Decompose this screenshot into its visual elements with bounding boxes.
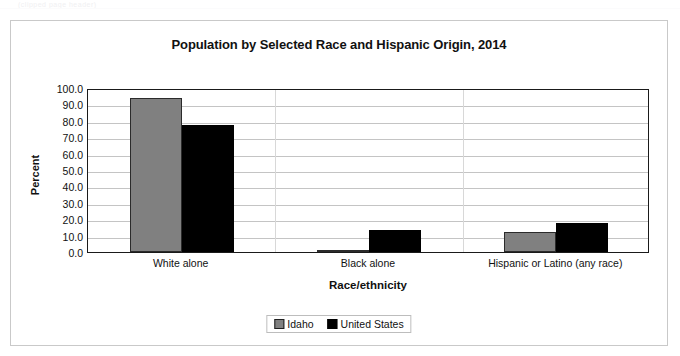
y-axis-tick-label: 100.0 bbox=[39, 83, 83, 95]
y-axis-tick-label: 70.0 bbox=[39, 132, 83, 144]
bar bbox=[182, 125, 234, 252]
chart-legend: IdahoUnited States bbox=[266, 315, 411, 333]
bars-layer bbox=[88, 90, 648, 252]
y-axis-tick-labels: 0.010.020.030.040.050.060.070.080.090.01… bbox=[39, 89, 83, 253]
legend-swatch-icon bbox=[274, 319, 284, 329]
clipped-header-text: (clipped page header) bbox=[18, 1, 97, 8]
y-axis-tick-label: 90.0 bbox=[39, 99, 83, 111]
legend-entry[interactable]: United States bbox=[328, 318, 404, 330]
y-axis-tick-label: 50.0 bbox=[39, 165, 83, 177]
y-axis-tick-label: 10.0 bbox=[39, 231, 83, 243]
y-axis-tick-label: 80.0 bbox=[39, 116, 83, 128]
x-axis-title: Race/ethnicity bbox=[87, 279, 649, 291]
y-axis-tick-label: 30.0 bbox=[39, 198, 83, 210]
bar bbox=[369, 230, 421, 252]
y-axis-tick-label: 60.0 bbox=[39, 149, 83, 161]
chart-title: Population by Selected Race and Hispanic… bbox=[11, 37, 667, 52]
legend-label: Idaho bbox=[287, 318, 313, 330]
chart-container: Population by Selected Race and Hispanic… bbox=[10, 20, 668, 346]
bar bbox=[504, 232, 556, 252]
bar-group bbox=[275, 90, 462, 252]
y-axis-tick-label: 0.0 bbox=[39, 247, 83, 259]
clipped-header-artifact: (clipped page header) bbox=[0, 0, 680, 12]
x-axis-tick-label: Black alone bbox=[274, 257, 461, 269]
legend-entry[interactable]: Idaho bbox=[274, 318, 313, 330]
bar bbox=[556, 223, 608, 252]
clipped-header-rule bbox=[0, 8, 680, 9]
plot-area bbox=[87, 89, 649, 253]
x-axis-tick-labels: White aloneBlack aloneHispanic or Latino… bbox=[87, 257, 649, 275]
bar-group bbox=[463, 90, 650, 252]
legend-swatch-icon bbox=[328, 319, 338, 329]
x-axis-tick-label: White alone bbox=[87, 257, 274, 269]
bar-group bbox=[88, 90, 275, 252]
legend-label: United States bbox=[341, 318, 404, 330]
x-axis-tick-label: Hispanic or Latino (any race) bbox=[462, 257, 649, 269]
bar bbox=[317, 250, 369, 252]
y-axis-tick-label: 40.0 bbox=[39, 181, 83, 193]
bar bbox=[130, 98, 182, 252]
y-axis-tick-label: 20.0 bbox=[39, 214, 83, 226]
